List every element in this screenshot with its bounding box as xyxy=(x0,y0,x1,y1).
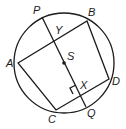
label-y: Y xyxy=(55,24,63,36)
quadrilateral-abdc xyxy=(18,21,109,110)
label-x: X xyxy=(79,79,88,91)
label-b: B xyxy=(88,6,95,18)
label-c: C xyxy=(48,113,56,125)
center-point-s xyxy=(62,61,66,65)
label-q: Q xyxy=(87,107,96,119)
label-p: P xyxy=(33,4,41,16)
right-angle-mark xyxy=(70,85,76,94)
label-s: S xyxy=(67,50,75,62)
label-d: D xyxy=(112,75,120,87)
geometry-diagram: P B A D C Q S Y X xyxy=(0,0,126,129)
label-a: A xyxy=(5,57,13,69)
